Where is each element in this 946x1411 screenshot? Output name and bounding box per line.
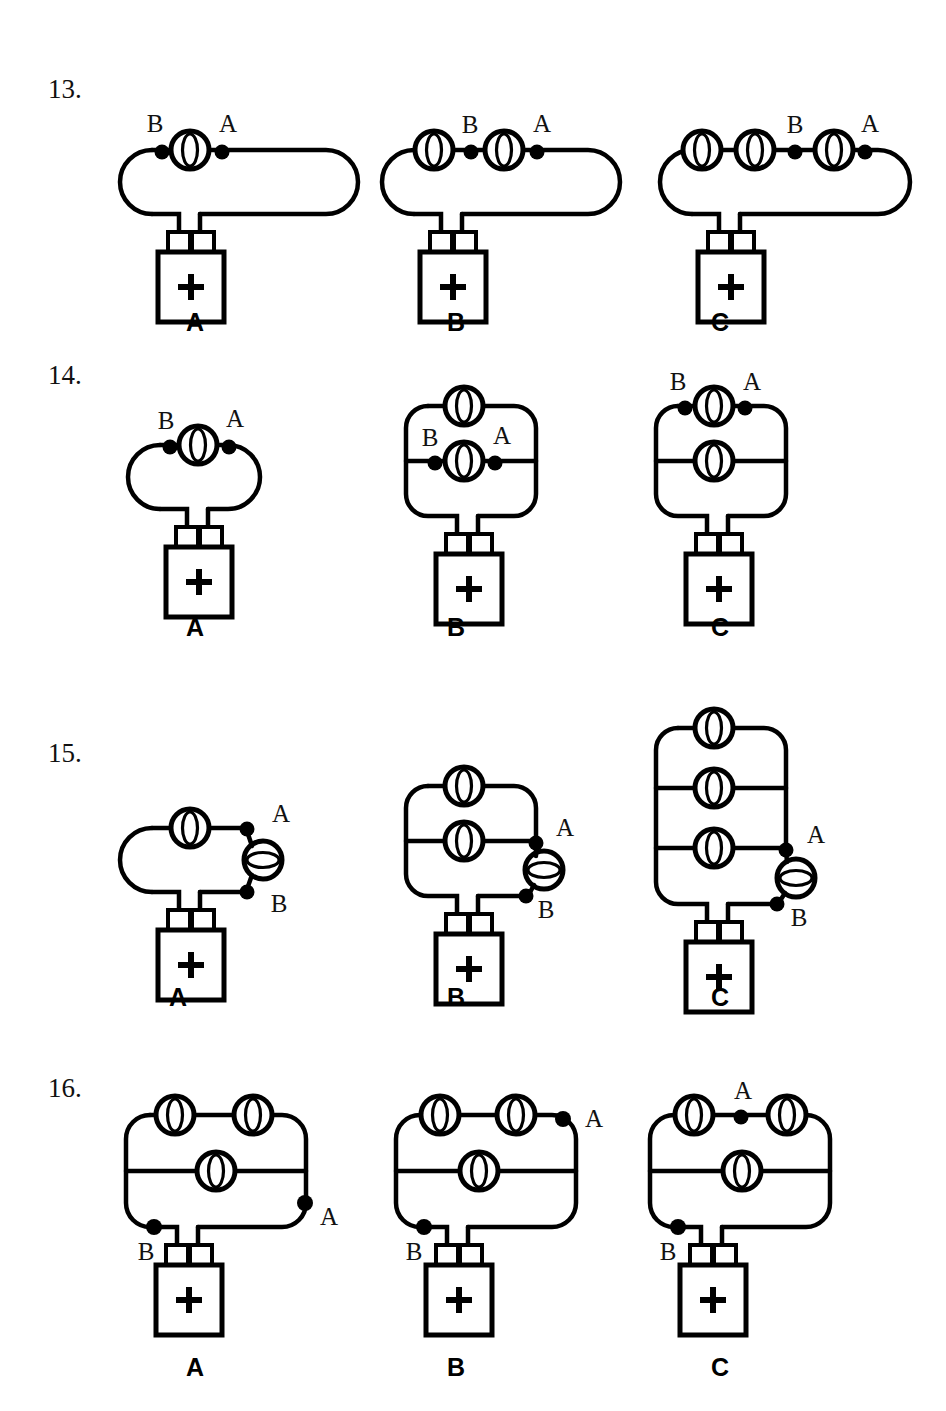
light-bulb-icon-middle — [695, 442, 733, 480]
node-label-a: A — [272, 800, 290, 827]
node-label-a: A — [734, 1077, 752, 1104]
battery-icon — [698, 232, 764, 322]
wire-left-arc — [128, 445, 160, 509]
circuit-node-dot-icon-b — [788, 145, 803, 160]
circuit-node-dot-icon-b — [770, 897, 785, 912]
light-bulb-icon-top-2 — [234, 1096, 272, 1134]
light-bulb-icon-middle-1 — [695, 769, 733, 807]
light-bulb-rotated-icon — [244, 841, 282, 879]
node-label-b: B — [462, 111, 479, 138]
light-bulb-icon-1 — [683, 131, 721, 169]
circuit-13-b[interactable]: B A — [362, 100, 642, 330]
light-bulb-icon-top — [695, 387, 733, 425]
light-bulb-icon-3 — [815, 131, 853, 169]
circuit-15-c[interactable]: A B — [628, 690, 878, 1020]
node-label-b: B — [538, 896, 555, 923]
option-label-13-b: B — [436, 310, 476, 335]
circuit-node-dot-icon-a — [215, 145, 230, 160]
light-bulb-rotated-icon — [777, 859, 815, 897]
light-bulb-icon-middle — [445, 442, 483, 480]
node-label-b: B — [660, 1238, 677, 1265]
light-bulb-icon-middle — [460, 1152, 498, 1190]
question-number-14: 14. — [48, 362, 82, 389]
light-bulb-icon-top — [171, 809, 209, 847]
light-bulb-icon-top-1 — [156, 1096, 194, 1134]
circuit-13-c[interactable]: B A — [640, 100, 930, 330]
circuit-node-dot-icon-b — [240, 885, 255, 900]
battery-icon — [680, 1245, 746, 1335]
battery-icon — [156, 1245, 222, 1335]
circuit-14-a[interactable]: B A — [108, 405, 338, 635]
circuit-node-dot-icon-b — [519, 889, 534, 904]
circuit-node-dot-icon-b — [670, 1219, 686, 1235]
option-label-14-b: B — [436, 615, 476, 640]
node-label-a: A — [533, 110, 551, 137]
circuit-13-a[interactable]: B A — [100, 100, 380, 330]
battery-icon — [426, 1245, 492, 1335]
circuit-node-dot-icon-b — [464, 145, 479, 160]
wire-left-arc — [382, 150, 414, 214]
battery-icon — [166, 527, 232, 617]
node-label-a: A — [585, 1105, 603, 1132]
node-label-a: A — [807, 821, 825, 848]
wire-left-arc — [120, 828, 152, 892]
battery-icon — [436, 534, 502, 624]
light-bulb-icon-top-2 — [497, 1096, 535, 1134]
node-label-a: A — [556, 814, 574, 841]
light-bulb-icon-top — [445, 767, 483, 805]
node-label-b: B — [422, 424, 439, 451]
node-label-a: A — [226, 405, 244, 432]
question-number-15: 15. — [48, 740, 82, 767]
light-bulb-icon-middle — [723, 1152, 761, 1190]
circuit-node-dot-icon-a — [779, 843, 794, 858]
circuit-node-dot-icon-a — [734, 1110, 749, 1125]
option-label-15-b: B — [436, 985, 476, 1010]
light-bulb-icon — [179, 426, 217, 464]
wire-top-right — [692, 150, 910, 214]
circuit-14-c[interactable]: B A — [628, 368, 868, 638]
light-bulb-icon-top — [695, 709, 733, 747]
circuit-14-b[interactable]: B A — [378, 368, 618, 638]
option-label-15-c: C — [700, 985, 740, 1010]
light-bulb-icon-middle — [445, 822, 483, 860]
option-label-13-a: A — [175, 310, 215, 335]
light-bulb-icon-top — [445, 387, 483, 425]
circuit-15-a[interactable]: A B — [100, 780, 340, 1020]
light-bulb-icon-top-1 — [421, 1096, 459, 1134]
option-label-16-a: A — [175, 1355, 215, 1380]
option-label-16-b: B — [436, 1355, 476, 1380]
circuit-node-dot-icon-b — [155, 145, 170, 160]
node-label-b: B — [158, 407, 175, 434]
worksheet-page: 13. 14. 15. 16. B A — [0, 0, 946, 1411]
option-label-16-c: C — [700, 1355, 740, 1380]
circuit-15-b[interactable]: A B — [378, 748, 618, 1018]
light-bulb-icon — [171, 131, 209, 169]
light-bulb-icon-top-1 — [675, 1096, 713, 1134]
option-label-14-c: C — [700, 615, 740, 640]
wire-left-arc — [120, 150, 152, 214]
light-bulb-icon-1 — [415, 131, 453, 169]
node-label-b: B — [406, 1238, 423, 1265]
circuit-node-dot-icon-b — [416, 1219, 432, 1235]
circuit-16-a[interactable]: A B — [98, 1075, 368, 1355]
node-label-b: B — [787, 111, 804, 138]
circuit-node-dot-icon-b — [678, 401, 693, 416]
circuit-node-dot-icon-b — [428, 456, 443, 471]
circuit-node-dot-icon-a — [222, 440, 237, 455]
circuit-node-dot-icon-b — [146, 1219, 162, 1235]
circuit-node-dot-icon-a — [858, 145, 873, 160]
circuit-16-b[interactable]: A B — [368, 1075, 638, 1355]
light-bulb-icon-top-2 — [768, 1096, 806, 1134]
light-bulb-icon-2 — [736, 131, 774, 169]
node-label-a: A — [743, 368, 761, 395]
circuit-16-c[interactable]: A B — [622, 1075, 892, 1355]
node-label-b: B — [791, 904, 808, 931]
light-bulb-icon-2 — [485, 131, 523, 169]
light-bulb-icon-middle — [197, 1152, 235, 1190]
option-label-14-a: A — [175, 615, 215, 640]
node-label-a: A — [861, 110, 879, 137]
circuit-node-dot-icon-a — [530, 145, 545, 160]
circuit-node-dot-icon-a — [555, 1111, 571, 1127]
light-bulb-rotated-icon — [525, 851, 563, 889]
node-label-b: B — [670, 368, 687, 395]
